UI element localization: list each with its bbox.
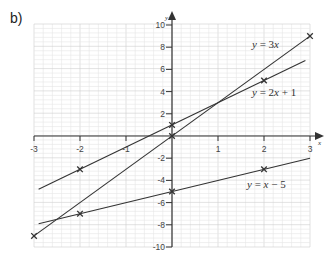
y-tick-label: -10 [153,242,166,252]
x-tick-label: 1 [216,144,221,154]
equation-label: y = x − 5 [246,178,286,190]
x-axis-label: x [317,139,322,147]
y-tick-label: -6 [157,198,165,208]
y-tick-label: -2 [157,153,165,163]
equation-label: y = 3x [251,38,279,50]
equation-label: y = 2x + 1 [251,86,296,98]
x-tick-label: 3 [308,144,313,154]
y-tick-label: 6 [160,64,165,74]
y-tick-label: 2 [160,109,165,119]
line-chart: xy-3-2-1123108642-2-4-6-8-10 y = 3xy = 2… [0,0,331,255]
x-tick-label: -3 [30,144,38,154]
y-tick-label: 10 [156,20,166,30]
x-tick-label: 2 [262,144,267,154]
y-tick-label: -4 [157,175,165,185]
y-tick-label: 4 [160,87,165,97]
y-axis-arrow-icon [168,11,176,20]
y-tick-label: 8 [160,42,165,52]
y-tick-label: -8 [157,220,165,230]
x-tick-label: -2 [76,144,84,154]
